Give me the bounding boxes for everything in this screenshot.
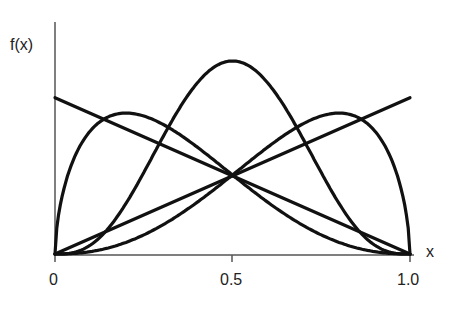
curve-symmetric-bell <box>55 61 410 254</box>
curve-right-skewed-hump <box>55 113 410 254</box>
x-tick-label-0: 0 <box>49 271 58 288</box>
x-axis-label: x <box>426 243 434 260</box>
x-tick-label-05: 0.5 <box>220 271 242 288</box>
curves <box>55 61 410 254</box>
y-axis-label: f(x) <box>10 36 33 53</box>
chart: f(x) x 0 0.5 1.0 <box>0 0 452 313</box>
x-tick-label-1: 1.0 <box>397 271 419 288</box>
curve-left-skewed-hump <box>55 113 410 254</box>
